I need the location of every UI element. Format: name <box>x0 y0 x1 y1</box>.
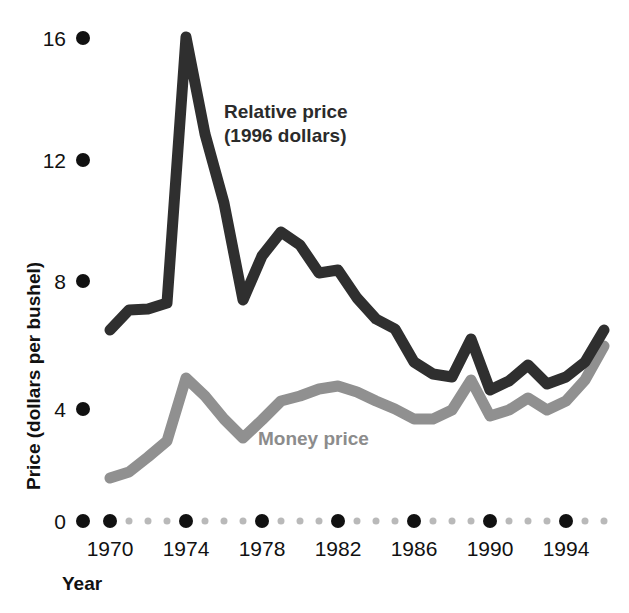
x-axis-minor-dot <box>544 518 551 525</box>
x-axis-major-dot <box>559 514 573 528</box>
y-axis-tick-labels: 16 12 8 4 0 <box>43 27 67 533</box>
x-axis-major-dot <box>331 514 345 528</box>
x-axis-minor-dot <box>601 518 608 525</box>
x-tick-label-1986: 1986 <box>391 537 438 560</box>
x-axis-minor-dot <box>297 518 304 525</box>
y-tick-dot-4 <box>76 402 90 416</box>
x-axis-minor-dot <box>468 518 475 525</box>
y-tick-label-12: 12 <box>43 149 66 172</box>
x-axis-major-dot <box>407 514 421 528</box>
x-axis-major-dot <box>483 514 497 528</box>
x-axis-minor-dot <box>145 518 152 525</box>
y-tick-label-16: 16 <box>43 27 66 50</box>
chart-container: 16 12 8 4 0 <box>0 0 629 613</box>
x-tick-label-1970: 1970 <box>87 537 134 560</box>
x-axis-minor-dot <box>449 518 456 525</box>
series-line-relative-price <box>110 37 604 390</box>
annotation-money-price: Money price <box>258 428 369 449</box>
y-tick-label-0: 0 <box>54 510 66 533</box>
price-line-chart: 16 12 8 4 0 <box>0 0 629 613</box>
y-axis-tick-dots <box>76 31 90 528</box>
x-axis-tick-labels: 1970 1974 1978 1982 1986 1990 1994 <box>87 537 590 560</box>
annotation-relative-price-line1: Relative price <box>224 101 348 122</box>
x-axis-minor-dot <box>202 518 209 525</box>
y-axis-title: Price (dollars per bushel) <box>23 262 44 490</box>
x-tick-label-1982: 1982 <box>315 537 362 560</box>
y-tick-label-8: 8 <box>54 270 66 293</box>
x-axis-minor-dot <box>221 518 228 525</box>
x-axis-dot-baseline <box>103 514 608 528</box>
x-axis-minor-dot <box>582 518 589 525</box>
x-axis-major-dot <box>103 514 117 528</box>
annotation-relative-price: Relative price (1996 dollars) <box>224 101 348 146</box>
x-axis-minor-dot <box>392 518 399 525</box>
x-axis-minor-dot <box>525 518 532 525</box>
y-tick-dot-0 <box>76 514 90 528</box>
x-axis-minor-dot <box>126 518 133 525</box>
annotation-relative-price-line2: (1996 dollars) <box>224 125 347 146</box>
x-axis-minor-dot <box>164 518 171 525</box>
x-axis-major-dot <box>179 514 193 528</box>
x-axis-minor-dot <box>354 518 361 525</box>
y-tick-dot-8 <box>76 274 90 288</box>
y-tick-dot-12 <box>76 153 90 167</box>
x-tick-label-1978: 1978 <box>239 537 286 560</box>
x-axis-title: Year <box>62 573 103 594</box>
x-axis-minor-dot <box>506 518 513 525</box>
x-axis-minor-dot <box>240 518 247 525</box>
x-axis-major-dot <box>255 514 269 528</box>
x-tick-label-1974: 1974 <box>163 537 210 560</box>
x-axis-minor-dot <box>373 518 380 525</box>
x-tick-label-1990: 1990 <box>467 537 514 560</box>
x-axis-minor-dot <box>430 518 437 525</box>
x-tick-label-1994: 1994 <box>543 537 590 560</box>
x-axis-minor-dot <box>278 518 285 525</box>
y-tick-label-4: 4 <box>54 398 66 421</box>
x-axis-minor-dot <box>316 518 323 525</box>
y-tick-dot-16 <box>76 31 90 45</box>
